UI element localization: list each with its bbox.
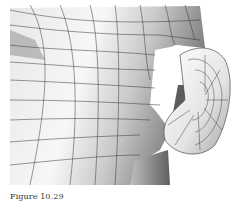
figure-caption: Figure 10.29 <box>10 192 64 201</box>
head-mesh-render <box>0 0 243 185</box>
figure: Figure 10.29 <box>0 0 243 211</box>
